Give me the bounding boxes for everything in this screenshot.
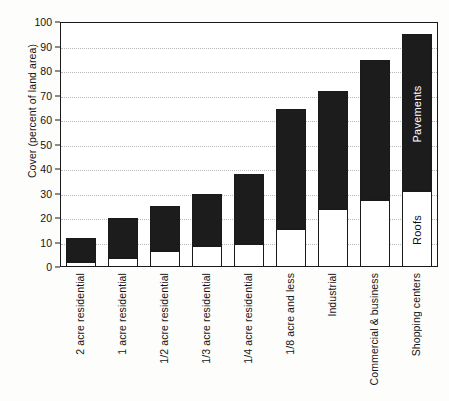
chart-figure: Cover (percent of land area) 01020304050…	[0, 0, 449, 401]
bar-column[interactable]	[234, 22, 264, 267]
bar-series-layer: PavementsRoofs	[60, 22, 438, 267]
y-tick-label: 70	[18, 90, 52, 102]
bar-segment-roofs[interactable]	[108, 258, 138, 267]
bar-segment-roofs[interactable]	[234, 244, 264, 267]
bar-column[interactable]	[192, 22, 222, 267]
y-tick-label: 60	[18, 114, 52, 126]
bar-column[interactable]	[150, 22, 180, 267]
bar-segment-roofs[interactable]	[276, 229, 306, 267]
bar-segment-pavements[interactable]	[150, 206, 180, 251]
x-axis-label: 1 acre residential	[116, 273, 130, 355]
y-tick-label: 0	[18, 261, 52, 273]
x-axis-label: 2 acre residential	[74, 273, 88, 355]
y-tick-label: 100	[18, 16, 52, 28]
bar-column[interactable]	[318, 22, 348, 267]
y-tick-label: 30	[18, 188, 52, 200]
bar-segment-pavements[interactable]	[360, 60, 390, 200]
x-axis-label: Industrial	[326, 273, 340, 317]
bar-column[interactable]	[360, 22, 390, 267]
bar-segment-pavements[interactable]	[66, 238, 96, 263]
bar-segment-pavements[interactable]: Pavements	[402, 34, 432, 191]
bar-segment-pavements[interactable]	[108, 218, 138, 258]
bar-segment-pavements[interactable]	[276, 109, 306, 229]
x-axis-label: Shopping centers	[410, 273, 424, 356]
x-axis-category-labels: 2 acre residential1 acre residential1/2 …	[60, 267, 438, 401]
bar-segment-roofs[interactable]	[192, 246, 222, 267]
y-tick-label: 80	[18, 65, 52, 77]
bar-segment-roofs[interactable]	[360, 200, 390, 267]
bar-segment-pavements[interactable]	[234, 174, 264, 244]
y-tick-label: 90	[18, 41, 52, 53]
x-axis-label: 1/3 acre residential	[200, 273, 214, 364]
y-tick-label: 20	[18, 212, 52, 224]
bar-column[interactable]: PavementsRoofs	[402, 22, 432, 267]
x-axis-label: Commercial & business	[368, 273, 382, 385]
bar-column[interactable]	[108, 22, 138, 267]
bar-segment-pavements[interactable]	[192, 194, 222, 247]
series-label-pavements: Pavements	[410, 82, 424, 145]
bar-segment-roofs[interactable]	[150, 251, 180, 267]
bar-segment-roofs[interactable]	[318, 209, 348, 267]
x-axis-label: 1/2 acre residential	[158, 273, 172, 364]
y-tick-label: 40	[18, 163, 52, 175]
y-tick-label: 50	[18, 139, 52, 151]
bar-column[interactable]	[276, 22, 306, 267]
bar-segment-pavements[interactable]	[318, 91, 348, 210]
bar-segment-roofs[interactable]: Roofs	[402, 191, 432, 267]
y-tick-label: 10	[18, 237, 52, 249]
series-label-roofs: Roofs	[410, 212, 424, 248]
x-axis-label: 1/8 acre and less	[284, 273, 298, 355]
bar-column[interactable]	[66, 22, 96, 267]
x-axis-label: 1/4 acre residential	[242, 273, 256, 364]
